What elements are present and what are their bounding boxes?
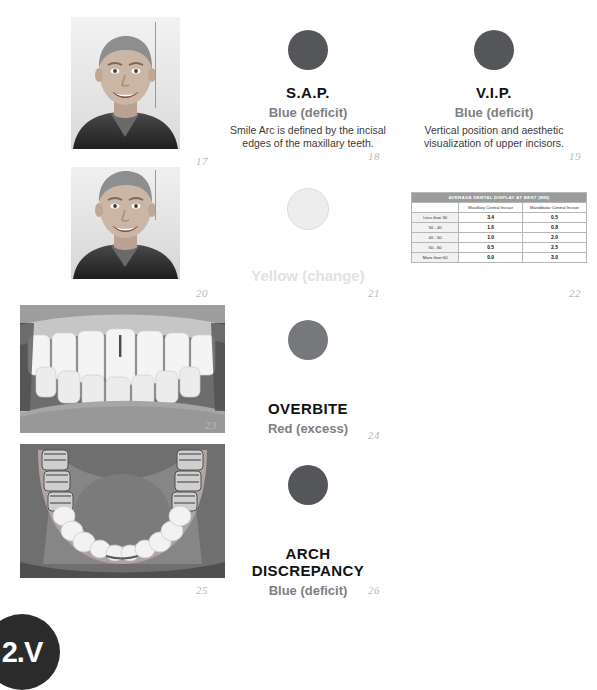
table-banner: AVERAGE DENTAL DISPLAY AT BEST (MM) [412,193,587,203]
occlusal-arch-illustration-icon [20,444,225,578]
figure-number-21: 21 [368,287,380,299]
sap-description: Smile Arc is defined by the incisal edge… [218,124,398,150]
intraoral-teeth-illustration-icon [20,305,225,433]
row-label: Less than 30 [412,213,459,223]
photo-portrait-smiling-man-upper [71,17,180,149]
figure-number-25: 25 [196,584,208,596]
figure-number-24: 24 [368,429,380,441]
average-dental-display-table: AVERAGE DENTAL DISPLAY AT BEST (MM) Maxi… [411,192,587,263]
table-row: 50 - 60 0.5 2.5 [412,243,587,253]
row-maxillary: 1.0 [459,233,523,243]
row-mandibular: 2.0 [523,233,587,243]
row-mandibular: 0.8 [523,223,587,233]
arch-discrepancy-title-line2: DISCREPANCY [218,562,398,579]
table-row: 30 - 40 1.6 0.8 [412,223,587,233]
vip-subtitle: Blue (deficit) [400,105,588,121]
concept-sap: S.A.P. Blue (deficit) Smile Arc is defin… [218,30,398,150]
table-row: Less than 30 3.4 0.5 [412,213,587,223]
yellow-subtitle: Yellow (change) [218,268,398,284]
row-mandibular: 3.0 [523,253,587,263]
row-mandibular: 2.5 [523,243,587,253]
vip-color-dot [474,30,514,70]
figure-number-26: 26 [368,584,380,596]
row-maxillary: 1.6 [459,223,523,233]
figure-number-17: 17 [196,155,208,167]
table-col-maxillary: Maxillary Central Incisor [459,203,523,213]
row-label: 50 - 60 [412,243,459,253]
vip-description: Vertical position and aesthetic visualiz… [400,124,588,150]
table-row: 40 - 50 1.0 2.0 [412,233,587,243]
arch-discrepancy-color-dot [288,465,328,505]
alignment-rule-upper [155,22,156,108]
figure-number-19: 19 [569,150,581,162]
concept-arch-discrepancy: ARCH DISCREPANCY Blue (deficit) [218,465,398,599]
overbite-title: OVERBITE [218,400,398,417]
row-label: More than 60 [412,253,459,263]
table-col-blank [412,203,459,213]
portrait-illustration-icon [71,17,180,149]
concept-yellow-change: Yellow (change) [218,188,398,284]
row-maxillary: 0.0 [459,253,523,263]
photo-intraoral-frontal-teeth [20,305,225,433]
sap-title: S.A.P. [218,84,398,101]
photo-portrait-smiling-man-lower [71,167,180,279]
alignment-rule-lower [155,170,156,220]
portrait-illustration-icon [71,167,180,279]
corner-chapter-badge-label: 2.V [2,636,43,669]
row-label: 30 - 40 [412,223,459,233]
vip-title: V.I.P. [400,84,588,101]
sap-subtitle: Blue (deficit) [218,105,398,121]
arch-discrepancy-title-line1: ARCH [218,545,398,562]
photo-occlusal-lower-arch [20,444,225,578]
table-row: More than 60 0.0 3.0 [412,253,587,263]
sap-color-dot [288,30,328,70]
row-mandibular: 0.5 [523,213,587,223]
row-maxillary: 3.4 [459,213,523,223]
figure-number-20: 20 [196,287,208,299]
row-maxillary: 0.5 [459,243,523,253]
table-col-mandibular: Mandibular Central Incisor [523,203,587,213]
corner-chapter-badge: 2.V [0,614,60,690]
yellow-color-dot [287,188,329,230]
figure-number-22: 22 [569,287,581,299]
concept-vip: V.I.P. Blue (deficit) Vertical position … [400,30,588,150]
figure-number-18: 18 [368,150,380,162]
overbite-color-dot [288,320,328,360]
figure-number-23: 23 [205,419,217,431]
concept-overbite: OVERBITE Red (excess) [218,320,398,437]
row-label: 40 - 50 [412,233,459,243]
